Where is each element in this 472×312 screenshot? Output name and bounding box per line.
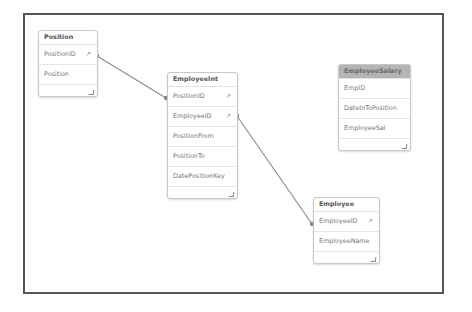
- field-row[interactable]: EmployeeName: [314, 232, 379, 252]
- table-header[interactable]: Employee: [314, 198, 379, 212]
- table-header[interactable]: EmployeeSalary: [339, 65, 410, 79]
- table-employeeint[interactable]: EmployeeInt PositionID ↗ EmployeeID ↗ Po…: [167, 72, 238, 199]
- resize-handle-icon[interactable]: [89, 90, 95, 95]
- field-name: PositionID: [173, 92, 205, 100]
- field-name: Position: [44, 70, 69, 78]
- field-row[interactable]: PositionID ↗: [168, 87, 237, 107]
- field-name: EmployeeID: [173, 112, 211, 120]
- field-row[interactable]: EmpID: [339, 79, 410, 99]
- field-row[interactable]: PositionFrom: [168, 127, 237, 147]
- key-icon: ↗: [86, 45, 91, 64]
- field-name: EmployeeName: [319, 237, 370, 245]
- field-row[interactable]: EmployeeID ↗: [168, 107, 237, 127]
- field-name: EmployeeID: [319, 217, 357, 225]
- resize-handle-icon[interactable]: [229, 192, 235, 197]
- table-header[interactable]: Position: [39, 31, 97, 45]
- table-employeesalary[interactable]: EmployeeSalary EmpID DateInToPosition Em…: [338, 64, 411, 151]
- key-icon: ↗: [226, 87, 231, 106]
- field-row[interactable]: Position: [39, 65, 97, 85]
- resize-handle-icon[interactable]: [402, 144, 408, 149]
- field-name: PositionTo: [173, 152, 205, 160]
- field-name: DatePositionKey: [173, 172, 225, 180]
- field-row[interactable]: DatePositionKey: [168, 167, 237, 187]
- field-name: EmpID: [344, 84, 365, 92]
- table-position[interactable]: Position PositionID ↗ Position: [38, 30, 98, 97]
- field-row[interactable]: PositionID ↗: [39, 45, 97, 65]
- field-row[interactable]: EmployeeSal: [339, 119, 410, 139]
- field-row[interactable]: PositionTo: [168, 147, 237, 167]
- field-name: EmployeeSal: [344, 124, 385, 132]
- field-name: PositionFrom: [173, 132, 214, 140]
- table-employee[interactable]: Employee EmployeeID ↗ EmployeeName: [313, 197, 380, 264]
- table-header[interactable]: EmployeeInt: [168, 73, 237, 87]
- field-name: PositionID: [44, 50, 76, 58]
- field-row[interactable]: DateInToPosition: [339, 99, 410, 119]
- resize-handle-icon[interactable]: [371, 257, 377, 262]
- field-name: DateInToPosition: [344, 104, 397, 112]
- key-icon: ↗: [368, 212, 373, 231]
- key-icon: ↗: [226, 107, 231, 126]
- field-row[interactable]: EmployeeID ↗: [314, 212, 379, 232]
